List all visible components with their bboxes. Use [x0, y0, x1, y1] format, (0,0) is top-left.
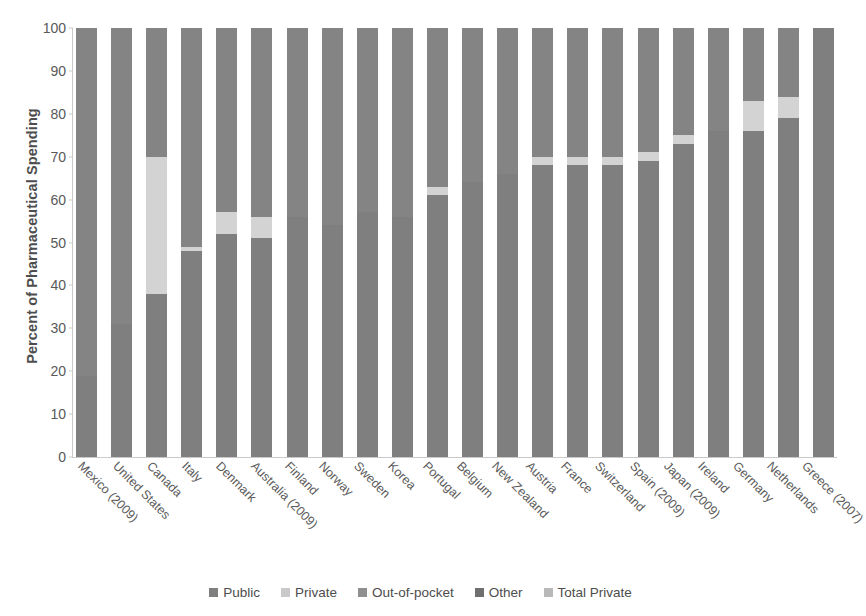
- bar-segment-public: [602, 165, 623, 457]
- y-axis-title: Percent of Pharmaceutical Spending: [24, 21, 40, 451]
- bar-denmark[interactable]: [216, 28, 237, 457]
- bar-mexico-2009[interactable]: [76, 28, 97, 457]
- y-tick-label-30: 30: [50, 320, 66, 336]
- bar-segment-public: [708, 131, 729, 457]
- legend-label: Out-of-pocket: [372, 585, 454, 600]
- legend-item-out-of-pocket[interactable]: Out-of-pocket: [358, 585, 454, 600]
- bar-korea[interactable]: [392, 28, 413, 457]
- bar-segment-other: [251, 28, 272, 217]
- bar-segment-total-private: [567, 157, 588, 166]
- bar-switzerland[interactable]: [602, 28, 623, 457]
- bar-germany[interactable]: [743, 28, 764, 457]
- y-tick-label-0: 0: [58, 449, 66, 465]
- bar-segment-other: [216, 28, 237, 212]
- y-tick-label-40: 40: [50, 277, 66, 293]
- y-tick-label-100: 100: [43, 20, 66, 36]
- bar-australia-2009[interactable]: [251, 28, 272, 457]
- bar-austria[interactable]: [532, 28, 553, 457]
- bar-segment-public: [357, 212, 378, 457]
- legend-item-public[interactable]: Public: [209, 585, 260, 600]
- legend-item-other[interactable]: Other: [475, 585, 523, 600]
- bar-segment-other: [181, 28, 202, 247]
- bar-segment-public: [462, 182, 483, 457]
- y-tick-label-70: 70: [50, 149, 66, 165]
- legend-label: Total Private: [558, 585, 632, 600]
- bar-france[interactable]: [567, 28, 588, 457]
- bar-segment-other: [778, 28, 799, 97]
- bar-segment-other: [322, 28, 343, 225]
- bar-ireland[interactable]: [708, 28, 729, 457]
- bar-segment-public: [146, 294, 167, 457]
- bar-united-states[interactable]: [111, 28, 132, 457]
- bar-segment-public: [287, 217, 308, 457]
- bar-segment-public: [216, 234, 237, 457]
- bar-finland[interactable]: [287, 28, 308, 457]
- bar-japan-2009[interactable]: [673, 28, 694, 457]
- bar-segment-public: [497, 174, 518, 457]
- bar-netherlands[interactable]: [778, 28, 799, 457]
- legend-swatch-icon: [209, 588, 218, 597]
- bar-sweden[interactable]: [357, 28, 378, 457]
- legend-swatch-icon: [281, 588, 290, 597]
- bar-segment-total-private: [216, 212, 237, 233]
- legend-swatch-icon: [475, 588, 484, 597]
- bar-italy[interactable]: [181, 28, 202, 457]
- bar-segment-other: [743, 28, 764, 101]
- chart-legend: PublicPrivateOut-of-pocketOtherTotal Pri…: [0, 585, 841, 600]
- bar-canada[interactable]: [146, 28, 167, 457]
- bar-segment-total-private: [638, 152, 659, 161]
- bar-segment-other: [673, 28, 694, 135]
- bar-segment-other: [462, 28, 483, 182]
- legend-label: Public: [223, 585, 260, 600]
- bar-segment-other: [708, 28, 729, 131]
- bar-segment-other: [76, 28, 97, 375]
- bar-segment-total-private: [251, 217, 272, 238]
- x-tick-label-italy: Italy: [179, 459, 205, 485]
- bar-segment-total-private: [602, 157, 623, 166]
- bar-segment-public: [743, 131, 764, 457]
- plot-area: 0102030405060708090100: [72, 28, 837, 458]
- bar-segment-other: [287, 28, 308, 217]
- bar-segment-public: [813, 28, 834, 457]
- legend-swatch-icon: [358, 588, 367, 597]
- bar-belgium[interactable]: [462, 28, 483, 457]
- bar-segment-total-private: [673, 135, 694, 144]
- bar-segment-total-private: [743, 101, 764, 131]
- bar-segment-total-private: [778, 97, 799, 118]
- bar-segment-total-private: [146, 157, 167, 294]
- bar-series-container: [73, 28, 837, 457]
- bar-segment-public: [567, 165, 588, 457]
- bar-segment-other: [427, 28, 448, 187]
- bar-norway[interactable]: [322, 28, 343, 457]
- bar-segment-public: [322, 225, 343, 457]
- bar-segment-other: [532, 28, 553, 157]
- bar-greece-2007[interactable]: [813, 28, 834, 457]
- bar-new-zealand[interactable]: [497, 28, 518, 457]
- x-tick-label-sweden: Sweden: [351, 459, 393, 501]
- bar-segment-public: [532, 165, 553, 457]
- y-tick-label-10: 10: [50, 406, 66, 422]
- legend-item-private[interactable]: Private: [281, 585, 337, 600]
- bar-segment-other: [638, 28, 659, 152]
- bar-segment-public: [251, 238, 272, 457]
- y-tick-label-90: 90: [50, 63, 66, 79]
- x-tick-label-mexico-2009: Mexico (2009): [75, 459, 141, 525]
- bar-portugal[interactable]: [427, 28, 448, 457]
- bar-segment-total-private: [427, 187, 448, 196]
- y-tick-label-50: 50: [50, 235, 66, 251]
- bar-segment-public: [76, 376, 97, 458]
- y-tick-label-60: 60: [50, 192, 66, 208]
- bar-spain-2009[interactable]: [638, 28, 659, 457]
- x-tick-label-greece-2007: Greece (2007): [799, 459, 866, 526]
- x-axis-labels: Mexico (2009)United StatesCanadaItalyDen…: [72, 459, 836, 569]
- x-tick-label-france: France: [558, 459, 595, 496]
- bar-segment-other: [497, 28, 518, 174]
- bar-segment-public: [181, 251, 202, 457]
- x-tick-label-belgium: Belgium: [454, 459, 496, 501]
- bar-segment-public: [638, 161, 659, 457]
- bar-segment-other: [602, 28, 623, 157]
- legend-label: Private: [295, 585, 337, 600]
- bar-segment-public: [392, 217, 413, 457]
- legend-item-total-private[interactable]: Total Private: [544, 585, 632, 600]
